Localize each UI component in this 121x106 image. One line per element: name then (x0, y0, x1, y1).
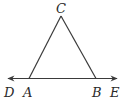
label-d: D (3, 85, 15, 100)
geometry-diagram: C D A B E (0, 0, 121, 106)
label-e: E (109, 85, 120, 100)
label-a: A (22, 85, 32, 100)
label-b: B (91, 85, 102, 100)
label-c: C (56, 1, 66, 16)
segment-ca (29, 16, 61, 79)
segment-cb (61, 16, 96, 79)
